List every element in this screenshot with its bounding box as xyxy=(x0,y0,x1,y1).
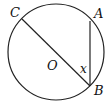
label-o: O xyxy=(47,59,58,72)
label-angle-x: x xyxy=(80,63,87,75)
circle-diagram: C A O x B xyxy=(0,0,108,103)
label-b: B xyxy=(94,84,104,97)
label-c: C xyxy=(10,6,20,19)
label-a: A xyxy=(94,7,103,20)
